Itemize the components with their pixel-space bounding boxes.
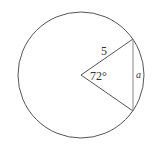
radius-lower: [81, 75, 133, 111]
chord-label: a: [136, 69, 141, 80]
circle-diagram: 5 72° a: [0, 0, 155, 146]
angle-label: 72°: [90, 69, 107, 83]
radius-upper: [81, 39, 133, 75]
radius-label: 5: [101, 44, 107, 58]
